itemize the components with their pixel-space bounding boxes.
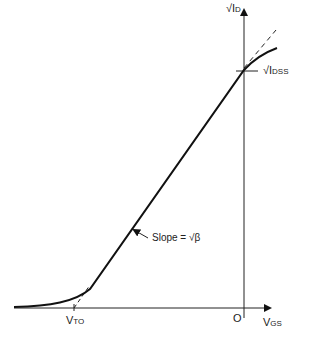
- vto-label: VTO: [66, 314, 84, 326]
- extrapolation-upper: [244, 30, 276, 68]
- x-axis-label: VGS: [263, 316, 282, 328]
- transfer-characteristic-diagram: [0, 0, 311, 338]
- sqrt-id-curve: [14, 48, 277, 307]
- slope-pointer: [134, 230, 148, 238]
- idss-label: √IDSS: [263, 64, 289, 76]
- origin-label: O: [233, 312, 242, 324]
- y-axis-label: √ID: [226, 2, 241, 14]
- slope-label: Slope = √β: [152, 232, 200, 243]
